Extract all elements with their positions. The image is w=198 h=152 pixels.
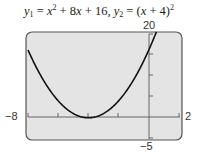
x-min-label: −8 <box>5 110 18 122</box>
graph-window <box>26 32 182 140</box>
y-max-label: 20 <box>143 19 155 31</box>
plot-area <box>0 0 198 152</box>
x-max-label: 2 <box>185 110 191 122</box>
y-min-label: −5 <box>140 140 153 152</box>
